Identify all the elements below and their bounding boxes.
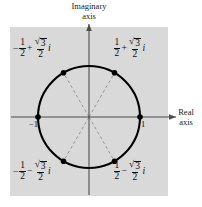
imaginary-fraction: √ 3 2 xyxy=(128,37,142,60)
expression-upper-left: − 1 2 + √ 3 2 i xyxy=(13,37,51,60)
imaginary-axis-label-line2: axis xyxy=(57,12,121,22)
imaginary-numerator: √ 3 xyxy=(128,37,142,49)
complex-plane-figure: Imaginary axis Real axis −1 1 − 1 2 + √ … xyxy=(0,0,202,207)
imaginary-numerator: √ 3 xyxy=(128,160,142,172)
imaginary-denominator: 2 xyxy=(37,172,44,183)
imaginary-fraction: √ 3 2 xyxy=(34,160,48,183)
tick-label-positive-one: 1 xyxy=(141,119,145,129)
imaginary-fraction: √ 3 2 xyxy=(34,37,48,60)
real-axis-label: Real axis xyxy=(170,108,202,127)
real-fraction: 1 2 xyxy=(19,38,26,59)
imaginary-denominator: 2 xyxy=(37,49,44,60)
imaginary-unit: i xyxy=(48,43,51,53)
expression-upper-right: 1 2 + √ 3 2 i xyxy=(113,37,145,60)
real-denominator: 2 xyxy=(114,171,121,182)
real-fraction: 1 2 xyxy=(19,161,26,182)
real-numerator: 1 xyxy=(19,38,26,48)
expression-lower-right: 1 2 − √ 3 2 i xyxy=(113,160,145,183)
imaginary-axis-label: Imaginary axis xyxy=(57,2,121,21)
real-axis-label-line2: axis xyxy=(170,118,202,128)
tick-label-negative-one: −1 xyxy=(29,119,38,129)
point-upper-left xyxy=(61,70,67,76)
real-numerator: 1 xyxy=(114,161,121,171)
imaginary-unit: i xyxy=(48,166,51,176)
point-lower-left xyxy=(61,158,67,164)
imaginary-axis-line xyxy=(86,24,92,195)
imaginary-numerator: √ 3 xyxy=(34,37,48,49)
operator: − xyxy=(26,166,34,176)
real-denominator: 2 xyxy=(19,171,26,182)
real-fraction: 1 2 xyxy=(114,161,121,182)
radicand: 3 xyxy=(134,38,141,49)
radicand: 3 xyxy=(40,38,47,49)
radicand: 3 xyxy=(134,161,141,172)
dashed-radius-60 xyxy=(89,73,115,117)
point-label-lower-right: 1 2 − √ 3 2 i xyxy=(113,160,145,183)
operator: + xyxy=(120,43,128,53)
expression-lower-left: − 1 2 − √ 3 2 i xyxy=(13,160,51,183)
dashed-radius-300 xyxy=(89,117,115,161)
imaginary-axis-arrowhead xyxy=(86,24,92,31)
radical: √ 3 xyxy=(129,37,141,48)
imaginary-fraction: √ 3 2 xyxy=(128,160,142,183)
radical: √ 3 xyxy=(35,160,47,171)
radical: √ 3 xyxy=(35,37,47,48)
operator: − xyxy=(120,166,128,176)
imaginary-unit: i xyxy=(142,166,145,176)
imaginary-denominator: 2 xyxy=(132,49,139,60)
point-label-upper-left: − 1 2 + √ 3 2 i xyxy=(13,37,51,60)
point-label-lower-left: − 1 2 − √ 3 2 i xyxy=(13,160,51,183)
radicand: 3 xyxy=(40,161,47,172)
real-denominator: 2 xyxy=(19,48,26,59)
point-upper-right xyxy=(112,70,118,76)
point-label-upper-right: 1 2 + √ 3 2 i xyxy=(113,37,145,60)
imaginary-denominator: 2 xyxy=(132,172,139,183)
real-fraction: 1 2 xyxy=(114,38,121,59)
real-numerator: 1 xyxy=(114,38,121,48)
radical: √ 3 xyxy=(129,160,141,171)
real-denominator: 2 xyxy=(114,48,121,59)
operator: + xyxy=(26,43,34,53)
imaginary-numerator: √ 3 xyxy=(34,160,48,172)
dashed-radius-120 xyxy=(64,73,90,117)
dashed-radius-240 xyxy=(64,117,90,161)
real-numerator: 1 xyxy=(19,161,26,171)
imaginary-unit: i xyxy=(142,43,145,53)
